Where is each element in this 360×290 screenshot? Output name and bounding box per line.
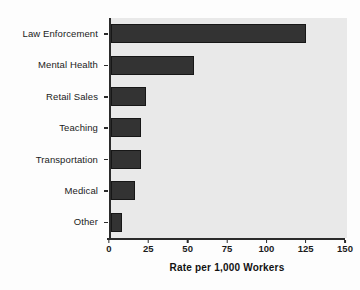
plot-area <box>109 18 347 238</box>
category-axis: Law Enforcement Mental Health Retail Sal… <box>0 18 104 238</box>
x-axis-ticks: 0255075100125150 <box>109 240 345 258</box>
x-tick-label: 50 <box>182 244 193 254</box>
x-tick-label: 125 <box>298 244 314 254</box>
x-tick: 75 <box>222 240 233 254</box>
x-tick-label: 150 <box>337 244 353 254</box>
category-label: Retail Sales <box>0 92 104 102</box>
bar-row <box>111 56 347 75</box>
x-tick: 150 <box>337 240 353 254</box>
x-tick-label: 0 <box>106 244 111 254</box>
x-tick: 125 <box>298 240 314 254</box>
bar-teaching <box>111 118 141 137</box>
category-label: Other <box>0 217 104 227</box>
bar-row <box>111 213 347 232</box>
category-label: Teaching <box>0 123 104 133</box>
x-tick: 25 <box>143 240 154 254</box>
x-tick-label: 25 <box>143 244 154 254</box>
bar-row <box>111 150 347 169</box>
bar-retail-sales <box>111 87 146 106</box>
bar-law-enforcement <box>111 24 306 43</box>
bar-chart-figure: Law Enforcement Mental Health Retail Sal… <box>0 0 360 290</box>
bar-transportation <box>111 150 141 169</box>
bar-mental-health <box>111 56 194 75</box>
category-label: Medical <box>0 186 104 196</box>
bar-row <box>111 181 347 200</box>
bar-other <box>111 213 122 232</box>
x-tick: 0 <box>106 240 111 254</box>
category-label: Law Enforcement <box>0 29 104 39</box>
bar-row <box>111 118 347 137</box>
bar-row <box>111 87 347 106</box>
x-tick: 50 <box>182 240 193 254</box>
category-label: Transportation <box>0 155 104 165</box>
bar-medical <box>111 181 135 200</box>
x-axis-title: Rate per 1,000 Workers <box>109 262 345 273</box>
bar-row <box>111 24 347 43</box>
x-tick-label: 100 <box>258 244 274 254</box>
x-tick-label: 75 <box>222 244 233 254</box>
category-label: Mental Health <box>0 60 104 70</box>
bars-layer <box>111 18 347 238</box>
x-tick: 100 <box>258 240 274 254</box>
